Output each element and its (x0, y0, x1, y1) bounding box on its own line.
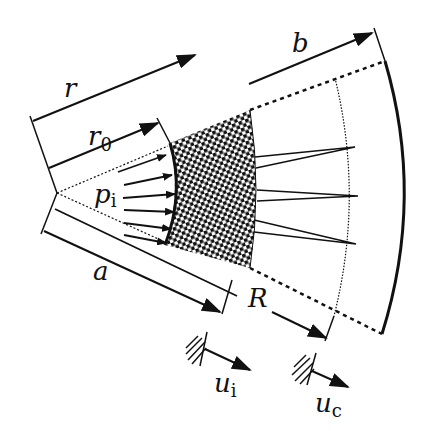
label-R: R (247, 283, 268, 313)
displacement-uc-symbol (292, 353, 348, 387)
radial-cracks (254, 147, 358, 244)
outer-boundary-arc (382, 61, 404, 334)
dimension-R (272, 312, 334, 341)
internal-pressure-arrows (118, 155, 175, 243)
label-a: a (93, 256, 109, 286)
label-uc: uc (315, 388, 342, 421)
dimension-r (30, 55, 195, 193)
label-r: r (64, 73, 78, 103)
label-r0: r0 (88, 121, 112, 155)
label-pi: pi (94, 179, 117, 211)
cavity-expansion-diagram: r r0 pi a R b ui (0, 0, 435, 431)
label-ui: ui (214, 368, 237, 401)
dimension-b (249, 28, 385, 84)
plastic-zone (165, 110, 256, 268)
diagram-canvas: r r0 pi a R b ui (0, 0, 435, 431)
displacement-ui-symbol (186, 332, 250, 370)
label-b: b (292, 28, 309, 58)
